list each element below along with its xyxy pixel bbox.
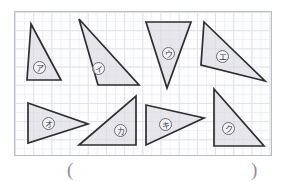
- triangle-ku-label: ク: [222, 122, 235, 135]
- triangle-ki-label: キ: [159, 118, 172, 131]
- triangle-o-shape: [28, 103, 88, 143]
- triangle-u-label: ウ: [162, 47, 175, 60]
- graph-paper-grid: ア イ ウ エ オ カ キ ク: [14, 11, 272, 156]
- triangle-e-label: エ: [216, 50, 229, 63]
- triangle-e-shape: [201, 22, 265, 81]
- triangle-a-label: ア: [33, 61, 46, 74]
- worksheet-page: ア イ ウ エ オ カ キ ク ( ): [0, 0, 286, 182]
- triangles-layer: [15, 12, 272, 156]
- answer-parentheses-row: ( ): [14, 157, 272, 182]
- close-paren: ): [251, 157, 257, 182]
- triangle-o-label: オ: [42, 117, 55, 130]
- open-paren: (: [67, 157, 73, 182]
- triangle-ka-shape: [79, 96, 136, 145]
- triangle-ku-shape: [214, 89, 264, 146]
- triangle-ka-label: カ: [114, 124, 127, 137]
- triangle-i-shape: [79, 19, 139, 85]
- triangle-ki-shape: [146, 105, 204, 145]
- triangle-i-label: イ: [92, 62, 105, 75]
